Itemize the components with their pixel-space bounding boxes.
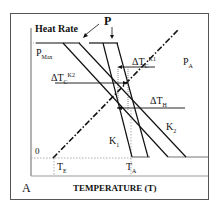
- dtc-k2-label: ΔTCK2: [51, 72, 75, 85]
- p-arrow-left: [84, 24, 99, 36]
- dtc-k1-arrowhead: [118, 65, 122, 69]
- dtc-k1-label: ΔTCK1: [132, 56, 156, 69]
- diagram-canvas: [0, 0, 222, 209]
- te-label: TE: [57, 162, 67, 174]
- k1-label: K1: [109, 136, 119, 148]
- ta-label: TA: [126, 162, 136, 174]
- pmax-label: PMax: [36, 48, 53, 60]
- zero-label: 0: [35, 147, 40, 156]
- panel-label: A: [22, 182, 31, 194]
- pa-label: PA: [183, 57, 193, 69]
- x-axis-label: TEMPERATURE (T): [73, 184, 157, 193]
- k2-label: K2: [166, 122, 176, 134]
- p-label: P: [104, 15, 111, 27]
- dth-label: ΔTH: [150, 96, 167, 108]
- y-axis-label: Heat Rate: [35, 24, 78, 34]
- p-arrowhead-down: [110, 35, 114, 39]
